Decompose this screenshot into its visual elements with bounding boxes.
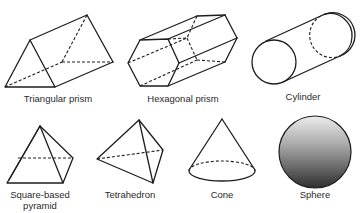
label-triangular-prism: Triangular prism bbox=[24, 93, 92, 104]
triangular-prism-shape bbox=[5, 15, 113, 87]
cylinder-shape bbox=[252, 13, 355, 84]
solid-shapes-diagram bbox=[0, 0, 360, 213]
hexagonal-prism-shape bbox=[128, 15, 237, 86]
tetrahedron-shape bbox=[97, 120, 163, 183]
label-hexagonal-prism: Hexagonal prism bbox=[147, 93, 218, 104]
label-cylinder: Cylinder bbox=[286, 91, 321, 102]
cone-shape bbox=[189, 119, 255, 181]
sphere-shape bbox=[279, 116, 351, 188]
label-square-based-pyramid: Square-based pyramid bbox=[0, 189, 80, 211]
label-tetrahedron: Tetrahedron bbox=[105, 189, 156, 200]
square-based-pyramid-shape bbox=[7, 126, 73, 183]
label-cone: Cone bbox=[211, 189, 234, 200]
label-sphere: Sphere bbox=[300, 189, 331, 200]
